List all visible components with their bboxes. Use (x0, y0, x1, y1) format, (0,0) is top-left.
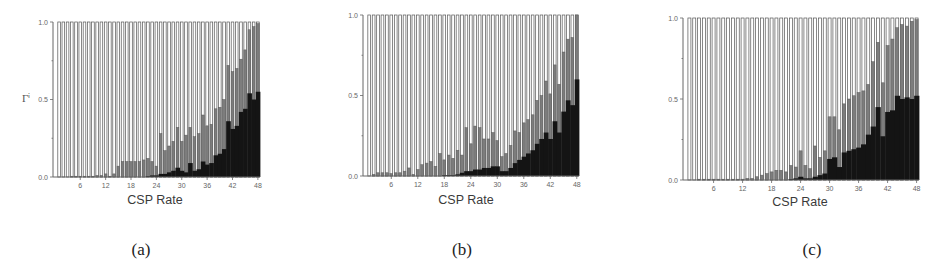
bar-dark (832, 157, 837, 180)
bar-dark (900, 99, 905, 180)
x-tick-label: 18 (768, 185, 776, 192)
bar-mid (765, 174, 768, 180)
bar-dark (842, 152, 847, 180)
bar-mid (785, 172, 788, 180)
bar-white (727, 18, 730, 180)
bar-dark (822, 174, 827, 180)
bar-white (751, 18, 754, 180)
bar-mid (804, 165, 807, 180)
x-tick-label: 36 (855, 185, 863, 192)
bar-dark (871, 127, 876, 180)
bar-dark (880, 136, 885, 180)
bar-mid (760, 175, 763, 180)
bar-mid (789, 165, 792, 180)
bar-dark (856, 148, 861, 180)
y-tick-label: 0.5 (668, 96, 678, 103)
bar-dark (837, 167, 842, 180)
bar-mid (775, 170, 778, 180)
bar-white (804, 18, 807, 180)
bar-mid (814, 146, 817, 180)
bar-dark (876, 107, 881, 180)
bar-white (731, 18, 734, 180)
bar-white (717, 18, 720, 180)
bar-white (780, 18, 783, 180)
bar-white (765, 18, 768, 180)
bar-white (698, 18, 701, 180)
y-tick-label: 0.0 (668, 177, 678, 184)
bar-white (770, 18, 773, 180)
x-tick-label: 6 (712, 185, 716, 192)
bar-dark (890, 110, 895, 180)
x-tick-label: 24 (797, 185, 805, 192)
bar-white (736, 18, 739, 180)
bar-dark (818, 175, 823, 180)
x-axis-label-c: CSP Rate (772, 195, 827, 209)
x-tick-label: 12 (739, 185, 747, 192)
bar-mid (799, 151, 802, 180)
bar-white (794, 18, 797, 180)
bar-dark (861, 144, 866, 180)
bar-dark (866, 135, 871, 180)
bar-dark (909, 99, 914, 180)
bar-dark (905, 97, 910, 180)
bar-dark (914, 96, 919, 180)
y-tick-label: 1.0 (668, 15, 678, 22)
bar-white (785, 18, 788, 180)
bar-white (756, 18, 759, 180)
bar-white (712, 18, 715, 180)
bar-mid (794, 167, 797, 180)
figure-panel-c: 0.00.51.0612182430364248 CSP Rate (c) (0, 0, 940, 276)
bar-dark (851, 149, 856, 180)
bar-white (722, 18, 725, 180)
bar-dark (895, 96, 900, 180)
bar-white (775, 18, 778, 180)
bar-white (693, 18, 696, 180)
bar-white (760, 18, 763, 180)
bar-white (746, 18, 749, 180)
bar-dark (827, 159, 832, 180)
x-tick-label: 42 (884, 185, 892, 192)
bar-mid (770, 172, 773, 180)
bar-white (809, 18, 812, 180)
bar-white (789, 18, 792, 180)
caption-c: (c) (803, 240, 822, 260)
x-tick-label: 48 (913, 185, 921, 192)
chart-c: 0.00.51.0612182430364248 (0, 0, 940, 276)
bar-mid (809, 169, 812, 180)
bar-white (741, 18, 744, 180)
x-tick-label: 30 (826, 185, 834, 192)
bar-dark (885, 112, 890, 180)
bar-white (707, 18, 710, 180)
bar-white (818, 18, 821, 180)
bar-white (688, 18, 691, 180)
bar-dark (847, 151, 852, 180)
bar-mid (780, 170, 783, 180)
bar-white (702, 18, 705, 180)
